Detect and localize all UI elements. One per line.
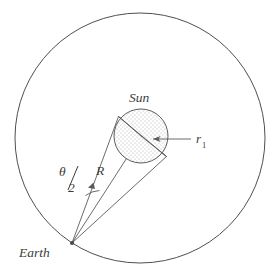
figure-root: Sun Earth R r 1 θ 2 xyxy=(0,0,271,271)
earth-label: Earth xyxy=(18,245,50,260)
distance-label-R: R xyxy=(95,163,105,178)
angle-label-denominator: 2 xyxy=(68,180,75,195)
angle-label-numerator: θ xyxy=(59,164,66,179)
radius-label-subscript: 1 xyxy=(202,140,206,150)
earth-point-marker xyxy=(70,241,74,245)
upper-tangent-line xyxy=(72,117,119,244)
sun-label: Sun xyxy=(129,90,150,105)
angle-arc-icon xyxy=(86,191,100,196)
geometry-diagram: Sun Earth R r 1 θ 2 xyxy=(0,0,271,271)
